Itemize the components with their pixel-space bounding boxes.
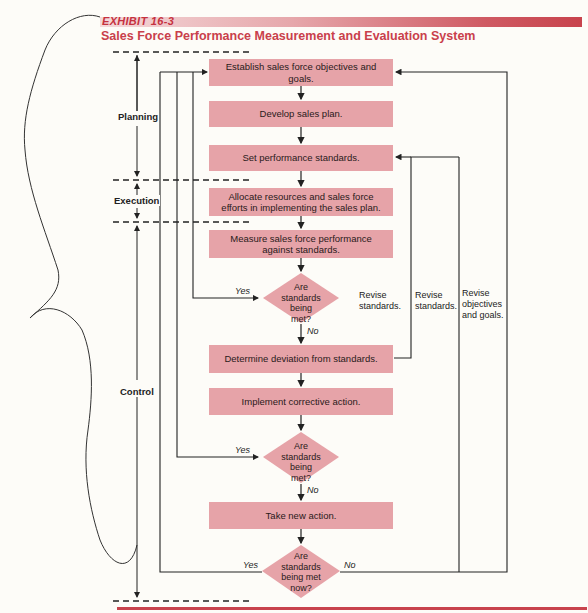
yes-label-2: Yes (235, 445, 250, 455)
step-take-new-action: Take new action. (209, 502, 393, 529)
yes-label-1: Yes (235, 286, 250, 296)
yes-label-3: Yes (243, 560, 258, 570)
no-label-3: No (344, 560, 356, 570)
phase-label-execution: Execution (113, 195, 160, 206)
note-revise-standards-1: Revise standards. (359, 290, 409, 312)
step-determine-deviation: Determine deviation from standards. (209, 345, 393, 373)
note-revise-objectives: Revise objectives and goals. (462, 288, 508, 321)
step-corrective-action: Implement corrective action. (209, 388, 393, 415)
step-set-standards: Set performance standards. (209, 145, 393, 171)
hand-drawn-bracket (24, 15, 137, 563)
no-label-2: No (307, 485, 319, 495)
no-label-1: No (307, 326, 319, 336)
step-develop-plan: Develop sales plan. (209, 101, 393, 127)
step-allocate-resources: Allocate resources and sales force effor… (209, 188, 393, 216)
decision-text-3: Are standards being met now? (265, 551, 337, 593)
bottom-rule (117, 607, 587, 610)
decision-text-1: Are standards being met? (265, 282, 337, 324)
step-measure-performance: Measure sales force performance against … (209, 230, 393, 258)
phase-label-planning: Planning (117, 111, 159, 122)
step-establish-objectives: Establish sales force objectives and goa… (209, 59, 393, 86)
phase-label-control: Control (119, 386, 155, 397)
decision-text-2: Are standards being met? (265, 441, 337, 483)
note-revise-standards-2: Revise standards. (415, 290, 459, 312)
